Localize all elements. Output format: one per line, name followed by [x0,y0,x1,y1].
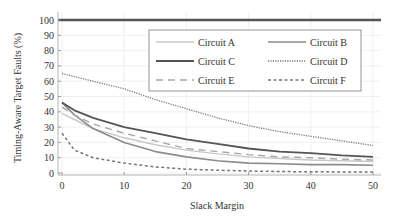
line-chart: 010203040500102030405060708090100 Circui… [0,0,396,218]
x-axis-label: Slack Margin [190,200,244,211]
y-tick-label: 60 [44,76,54,87]
y-tick-label: 40 [44,106,54,117]
x-tick-label: 30 [244,180,254,191]
x-tick-label: 40 [306,180,316,191]
y-tick-label: 0 [49,168,54,179]
legend-label: Circuit A [198,37,236,48]
legend-label: Circuit C [198,56,235,67]
y-tick-label: 30 [44,122,54,133]
x-tick-label: 20 [181,180,191,191]
series-line [62,103,373,157]
x-tick-label: 50 [368,180,378,191]
y-tick-label: 90 [44,30,54,41]
y-tick-label: 10 [44,152,54,163]
x-tick-label: 0 [60,180,65,191]
series-line [62,133,373,172]
x-tick-label: 10 [119,180,129,191]
y-tick-label: 50 [44,91,54,102]
legend-label: Circuit B [310,37,347,48]
legend-label: Circuit F [310,75,346,86]
legend: Circuit ACircuit BCircuit CCircuit DCirc… [149,30,361,91]
y-tick-label: 100 [39,15,54,26]
legend-label: Circuit D [310,56,348,67]
y-tick-label: 20 [44,137,54,148]
y-tick-label: 70 [44,60,54,71]
y-axis-label: Timing-Aware Target Faults (%) [12,33,24,163]
legend-label: Circuit E [198,75,234,86]
y-tick-label: 80 [44,45,54,56]
